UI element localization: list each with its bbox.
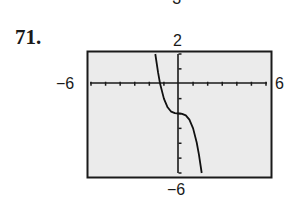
graphing-calculator-screen [0, 0, 293, 207]
